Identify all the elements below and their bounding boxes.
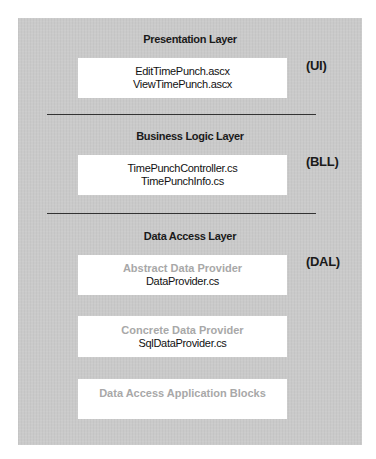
box-caption: Abstract Data Provider — [78, 262, 287, 275]
presentation-layer-box: EditTimePunch.ascx ViewTimePunch.ascx — [78, 58, 287, 98]
layer-separator — [47, 213, 316, 214]
box-line: EditTimePunch.ascx — [78, 65, 287, 78]
data-access-layer-title: Data Access Layer — [18, 230, 362, 242]
layer-separator — [47, 114, 316, 115]
abstract-data-provider-box: Abstract Data Provider DataProvider.cs — [78, 255, 287, 295]
bll-tag: (BLL) — [306, 154, 338, 169]
box-line: SqlDataProvider.cs — [78, 337, 287, 350]
box-caption: Concrete Data Provider — [78, 324, 287, 337]
ui-tag: (UI) — [306, 58, 326, 73]
box-line: TimePunchInfo.cs — [78, 175, 287, 188]
box-line: ViewTimePunch.ascx — [78, 78, 287, 91]
architecture-diagram-panel: Presentation Layer EditTimePunch.ascx Vi… — [18, 18, 362, 445]
box-caption: Data Access Application Blocks — [78, 387, 287, 400]
business-logic-layer-box: TimePunchController.cs TimePunchInfo.cs — [78, 155, 287, 195]
presentation-layer-title: Presentation Layer — [18, 33, 362, 45]
data-access-application-blocks-box: Data Access Application Blocks — [78, 379, 287, 419]
business-logic-layer-title: Business Logic Layer — [18, 130, 362, 142]
concrete-data-provider-box: Concrete Data Provider SqlDataProvider.c… — [78, 316, 287, 357]
dal-tag: (DAL) — [306, 254, 340, 269]
box-line: TimePunchController.cs — [78, 162, 287, 175]
box-line: DataProvider.cs — [78, 275, 287, 288]
